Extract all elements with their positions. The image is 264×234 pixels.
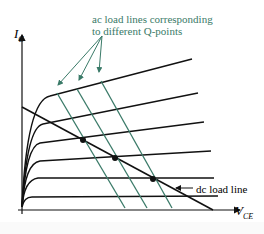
ac-load-lines-annotation: ac load lines corresponding to different… xyxy=(92,13,213,37)
annotation-line-2: to different Q-points xyxy=(92,25,213,37)
ac-load-lines xyxy=(57,81,172,208)
x-axis-sub: CE xyxy=(243,212,253,221)
annotation-arrows xyxy=(58,36,102,85)
x-axis-main: V xyxy=(235,203,243,218)
annotation-line-1: ac load lines corresponding xyxy=(92,13,213,25)
characteristic-curves xyxy=(22,59,218,207)
q-point xyxy=(112,155,118,161)
y-axis-sub: C xyxy=(18,35,23,44)
q-point xyxy=(80,137,86,143)
y-axis-label: IC xyxy=(14,26,24,44)
q-point xyxy=(150,176,156,182)
x-axis-label: VCE xyxy=(235,203,253,221)
dc-load-line-label: dc load line xyxy=(196,183,247,195)
